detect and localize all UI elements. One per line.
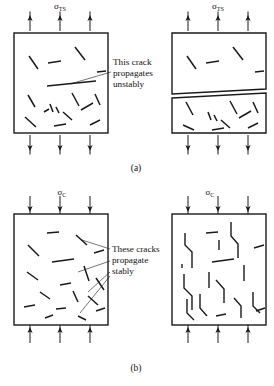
annotation-line: unstably [113, 79, 145, 89]
annotation-line: stably [112, 266, 134, 276]
annotation-line: This crack [113, 57, 152, 67]
specimen-box [172, 214, 266, 325]
panel-caption-b: (b) [130, 363, 141, 374]
annotation-line: propagate [112, 255, 148, 265]
crack [56, 308, 66, 309]
specimen-upper-fragment [172, 33, 266, 94]
propagated-crack [206, 232, 218, 233]
fracture-mechanics-figure: σTSσTSThis crackpropagatesunstably(a) σC… [0, 0, 274, 386]
crack [255, 71, 264, 72]
panel-caption-a: (a) [131, 163, 142, 174]
crack [47, 232, 59, 233]
annotation-line: propagates [113, 68, 153, 78]
annotation-line: These cracks [112, 244, 160, 254]
crack [97, 71, 106, 72]
specimen-box [14, 33, 108, 133]
